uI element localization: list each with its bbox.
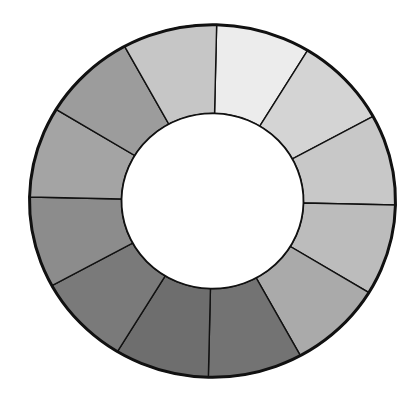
value-wheel-diagram <box>0 0 413 407</box>
